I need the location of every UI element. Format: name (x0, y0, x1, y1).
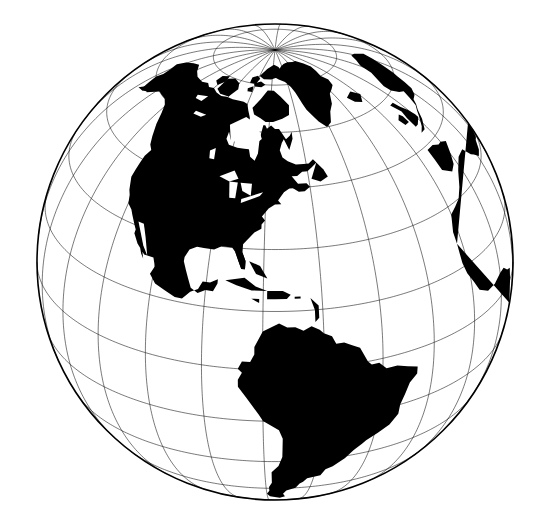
globe-svg (0, 0, 547, 527)
globe-figure: Black-and-white orthographic world globe… (0, 0, 547, 527)
